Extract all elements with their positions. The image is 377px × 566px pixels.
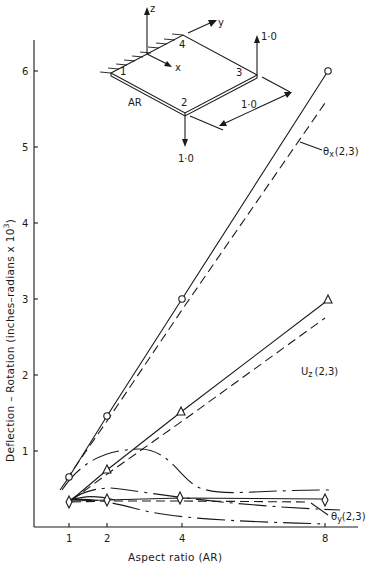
marker-circle-ar4 [179, 296, 185, 302]
y-tick-labels: 1 2 3 4 5 6 [22, 66, 28, 457]
marker-diamond-ar1 [66, 496, 72, 508]
marker-circle-ar1 [66, 474, 72, 480]
x-tick-labels: 1 2 4 8 [66, 533, 328, 544]
marker-triangle-ar2 [103, 465, 111, 473]
label-ar: AR [128, 97, 142, 108]
label-node-1: 1 [120, 66, 126, 77]
marker-circle-ar2 [104, 413, 110, 419]
y-ticks [34, 71, 38, 451]
marker-diamond-ar4 [177, 492, 183, 504]
x-axis-title: Aspect ratio (AR) [128, 551, 222, 563]
y-tick-5: 5 [22, 142, 28, 153]
x-tick-8: 8 [322, 533, 328, 544]
y-tick-4: 4 [22, 218, 28, 229]
y-tick-2: 2 [22, 370, 28, 381]
label-x: x [175, 62, 181, 73]
series-dashdot-upper [62, 449, 330, 493]
y-axis-arrow [188, 23, 210, 33]
chart-canvas: 1 2 3 4 5 6 1 2 4 8 Aspect ratio (AR) De… [0, 0, 377, 566]
series-theta-x-dashed [66, 103, 325, 480]
label-dimension: 1·0 [241, 99, 257, 110]
leader-theta-x [300, 142, 322, 150]
label-node-2: 2 [181, 97, 187, 108]
y-axis-title: Deflection – Rotation (inches–radians x … [2, 219, 16, 462]
series-theta-x-solid [60, 71, 328, 490]
label-node-4: 4 [179, 39, 185, 50]
label-load-down: 1·0 [178, 153, 194, 164]
y-tick-1: 1 [22, 446, 28, 457]
label-z: z [150, 3, 155, 14]
y-tick-6: 6 [22, 66, 28, 77]
x-tick-1: 1 [66, 533, 72, 544]
marker-circle-ar8 [325, 68, 331, 74]
y-tick-3: 3 [22, 294, 28, 305]
label-y: y [218, 17, 224, 28]
label-uz: Uz(2,3) [301, 366, 338, 379]
x-tick-2: 2 [104, 533, 110, 544]
marker-triangle-ar4 [177, 407, 185, 415]
x-tick-4: 4 [179, 533, 185, 544]
marker-diamond-ar2 [104, 494, 110, 506]
marker-diamond-ar8 [322, 494, 328, 506]
label-theta-x: θx(2,3) [323, 146, 359, 159]
marker-triangle-ar8 [324, 295, 332, 303]
label-node-3: 3 [236, 67, 242, 78]
label-theta-y: θy(2,3) [331, 511, 366, 524]
label-load-up: 1·0 [261, 31, 277, 42]
svg-text:Deflection – Rotation (inches: Deflection – Rotation (inches–radians x … [2, 219, 16, 462]
x-ticks [69, 523, 325, 527]
